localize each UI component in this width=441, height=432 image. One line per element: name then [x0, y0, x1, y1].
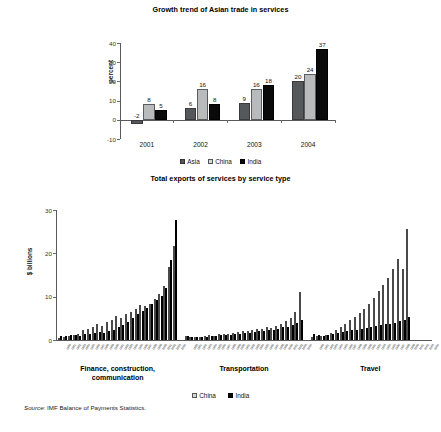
- chart1-y-tick: [117, 81, 120, 82]
- c2-bar-india: [175, 220, 177, 340]
- chart2-y-axis-title: $ billions: [26, 239, 33, 285]
- bar-india-2003: [263, 85, 275, 120]
- chart1-y-tick-label: 40: [90, 40, 116, 47]
- chart1-x-tick: [173, 120, 174, 123]
- bar-china-2004: [304, 74, 316, 120]
- legend-label-asia: Asia: [187, 158, 199, 165]
- legend-label-china: China: [199, 392, 216, 399]
- bar-asia-2001: [131, 120, 143, 124]
- chart2-y-tick: [53, 297, 56, 298]
- asia-swatch-icon: [180, 159, 185, 164]
- bar-asia-2004: [292, 81, 304, 119]
- india-swatch-icon: [228, 393, 233, 398]
- chart1-y-tick: [117, 139, 120, 140]
- chart1-y-tick-label: 20: [90, 78, 116, 85]
- source-text: IMF Balance of Payments Statistics.: [47, 404, 146, 411]
- chart2-y-tick: [53, 253, 56, 254]
- chart2-y-tick-label: 20: [26, 250, 52, 257]
- panel-label-line: Travel: [291, 364, 441, 373]
- chart1-x-label-2002: 2002: [174, 141, 228, 148]
- chart2-y-tick-label: 10: [26, 293, 52, 300]
- bar-asia-2003: [239, 103, 251, 120]
- china-swatch-icon: [192, 393, 197, 398]
- chart1-y-axis: [120, 43, 121, 139]
- c2-bar-india: [301, 320, 303, 340]
- legend-label-india: India: [235, 392, 249, 399]
- legend-item-india: India: [240, 158, 261, 165]
- panel-label-2: Travel: [291, 364, 441, 373]
- legend-item-china: China: [192, 392, 216, 399]
- chart1-x-tick: [335, 120, 336, 123]
- legend-item-china: China: [208, 158, 232, 165]
- chart2-y-tick-label: 0: [26, 337, 52, 344]
- legend-label-china: China: [215, 158, 232, 165]
- legend-label-india: India: [247, 158, 261, 165]
- chart1-x-tick: [281, 120, 282, 123]
- chart1-x-label-2004: 2004: [281, 141, 335, 148]
- bar-value-label: 16: [193, 81, 213, 88]
- chart2-x-axis: [56, 340, 432, 341]
- chart2-y-axis: [56, 210, 57, 340]
- chart1-y-axis-title: percent: [107, 52, 114, 92]
- india-swatch-icon: [240, 159, 245, 164]
- panel-label-line: communication: [38, 373, 197, 382]
- exports-by-service-type-chart: Total exports of services by service typ…: [0, 170, 441, 432]
- chart1-y-tick-label: 30: [90, 59, 116, 66]
- chart1-x-label-2003: 2003: [228, 141, 282, 148]
- chart2-title: Total exports of services by service typ…: [0, 170, 441, 183]
- bar-india-2004: [316, 49, 328, 120]
- chart1-y-tick-label: 0: [90, 116, 116, 123]
- chart1-legend: AsiaChinaIndia: [0, 158, 441, 165]
- bar-value-label: 5: [151, 102, 171, 109]
- growth-trend-chart: Growth trend of Asian trade in services …: [0, 0, 441, 165]
- bar-china-2003: [251, 89, 263, 120]
- chart1-x-label-2001: 2001: [120, 141, 174, 148]
- bar-value-label: 8: [205, 96, 225, 103]
- chart2-legend: ChinaIndia: [0, 392, 441, 399]
- c2-bar-india: [408, 317, 410, 340]
- chart1-y-tick: [117, 62, 120, 63]
- bar-india-2001: [155, 110, 167, 120]
- chart1-y-tick: [117, 43, 120, 44]
- chart1-y-tick-label: -10: [90, 136, 116, 143]
- chart2-y-tick-label: 30: [26, 207, 52, 214]
- bar-india-2002: [209, 104, 221, 119]
- source-label: Source:: [24, 404, 45, 411]
- bar-value-label: 37: [312, 41, 332, 48]
- legend-item-india: India: [228, 392, 249, 399]
- source-note: Source: IMF Balance of Payments Statisti…: [24, 404, 146, 411]
- chart1-title: Growth trend of Asian trade in services: [0, 0, 441, 14]
- bar-value-label: 18: [259, 77, 279, 84]
- china-swatch-icon: [208, 159, 213, 164]
- chart1-x-tick: [227, 120, 228, 123]
- chart1-y-tick-label: 10: [90, 97, 116, 104]
- legend-item-asia: Asia: [180, 158, 200, 165]
- bar-china-2002: [197, 89, 209, 120]
- bar-asia-2002: [185, 108, 197, 120]
- chart2-y-tick: [53, 210, 56, 211]
- chart1-y-tick: [117, 101, 120, 102]
